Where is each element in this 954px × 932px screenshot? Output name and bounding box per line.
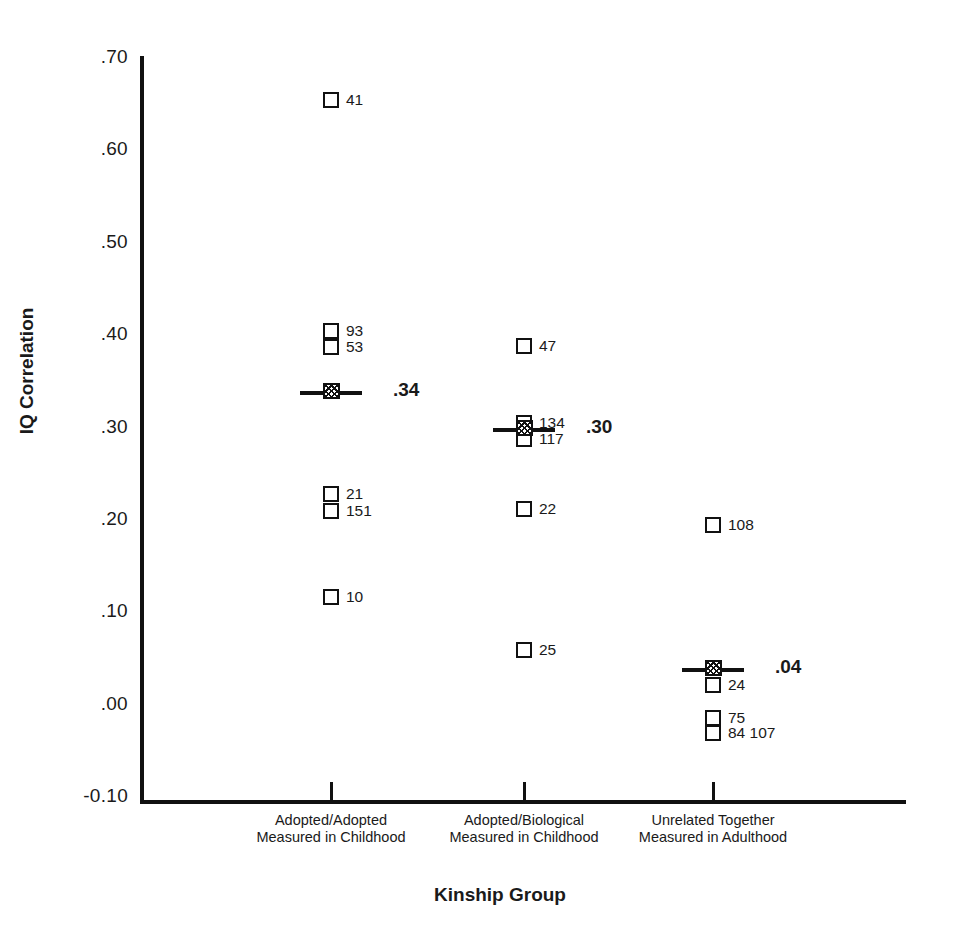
- group-mean-value: .34: [393, 379, 419, 401]
- x-category-label-line2: Measured in Childhood: [414, 829, 634, 846]
- data-point-marker[interactable]: [705, 725, 721, 741]
- y-axis-line: [140, 56, 144, 804]
- data-point-marker[interactable]: [705, 517, 721, 533]
- data-point-label: 22: [539, 500, 556, 518]
- mean-square-icon: [516, 420, 533, 436]
- y-axis-title: IQ Correlation: [16, 281, 38, 461]
- x-axis-line: [140, 800, 906, 804]
- data-point-label: 117: [539, 430, 564, 448]
- group-mean-value: .30: [586, 416, 612, 438]
- data-point-marker[interactable]: [516, 642, 532, 658]
- x-category-label-line1: Unrelated Together: [603, 812, 823, 829]
- x-category-label: Adopted/AdoptedMeasured in Childhood: [221, 812, 441, 846]
- x-category-label-line2: Measured in Adulthood: [603, 829, 823, 846]
- x-tick-mark: [330, 782, 333, 800]
- data-point-label: 84 107: [728, 724, 775, 742]
- data-point-marker[interactable]: [705, 710, 721, 726]
- data-point-label: 47: [539, 337, 556, 355]
- data-point-marker[interactable]: [705, 677, 721, 693]
- x-category-label-line2: Measured in Childhood: [221, 829, 441, 846]
- x-category-label: Adopted/BiologicalMeasured in Childhood: [414, 812, 634, 846]
- x-category-label-line1: Adopted/Biological: [414, 812, 634, 829]
- data-point-marker[interactable]: [323, 323, 339, 339]
- data-point-label: 41: [346, 91, 363, 109]
- data-point-label: 10: [346, 588, 363, 606]
- data-point-marker[interactable]: [516, 501, 532, 517]
- data-point-marker[interactable]: [323, 503, 339, 519]
- data-point-label: 21: [346, 485, 363, 503]
- data-point-label: 108: [728, 516, 754, 534]
- x-tick-mark: [712, 782, 715, 800]
- group-mean-value: .04: [775, 656, 801, 678]
- data-point-label: 151: [346, 502, 372, 520]
- data-point-label: 53: [346, 338, 363, 356]
- data-point-label: 93: [346, 322, 363, 340]
- data-point-marker[interactable]: [323, 92, 339, 108]
- data-point-marker[interactable]: [323, 486, 339, 502]
- mean-square-icon: [705, 660, 722, 676]
- data-point-label: 25: [539, 641, 556, 659]
- data-point-marker[interactable]: [323, 589, 339, 605]
- data-point-label: 24: [728, 676, 745, 694]
- x-tick-mark: [523, 782, 526, 800]
- chart-canvas: IQ Correlation Kinship Group .70.60.50.4…: [0, 0, 954, 932]
- x-category-label-line1: Adopted/Adopted: [221, 812, 441, 829]
- mean-square-icon: [323, 383, 340, 399]
- data-point-marker[interactable]: [323, 339, 339, 355]
- x-axis-title: Kinship Group: [350, 884, 650, 906]
- data-point-marker[interactable]: [516, 338, 532, 354]
- x-category-label: Unrelated TogetherMeasured in Adulthood: [603, 812, 823, 846]
